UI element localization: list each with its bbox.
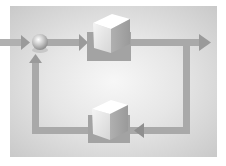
arrow-right-icon: [199, 34, 211, 51]
sphere-icon: [32, 34, 48, 50]
feedback-tap-line: [183, 45, 190, 134]
output-arrow: [130, 34, 211, 51]
summing-junction: [32, 34, 48, 53]
forward-path-arrow: [46, 34, 88, 51]
feedback-return-line: [29, 54, 42, 134]
arrow-left-icon: [134, 123, 144, 138]
feedback-block: [88, 100, 130, 143]
input-arrow: [0, 35, 30, 50]
forward-block: [87, 14, 131, 61]
arrow-right-icon: [79, 34, 88, 51]
arrow-up-icon: [29, 54, 42, 63]
feedback-loop-diagram: [0, 0, 226, 166]
